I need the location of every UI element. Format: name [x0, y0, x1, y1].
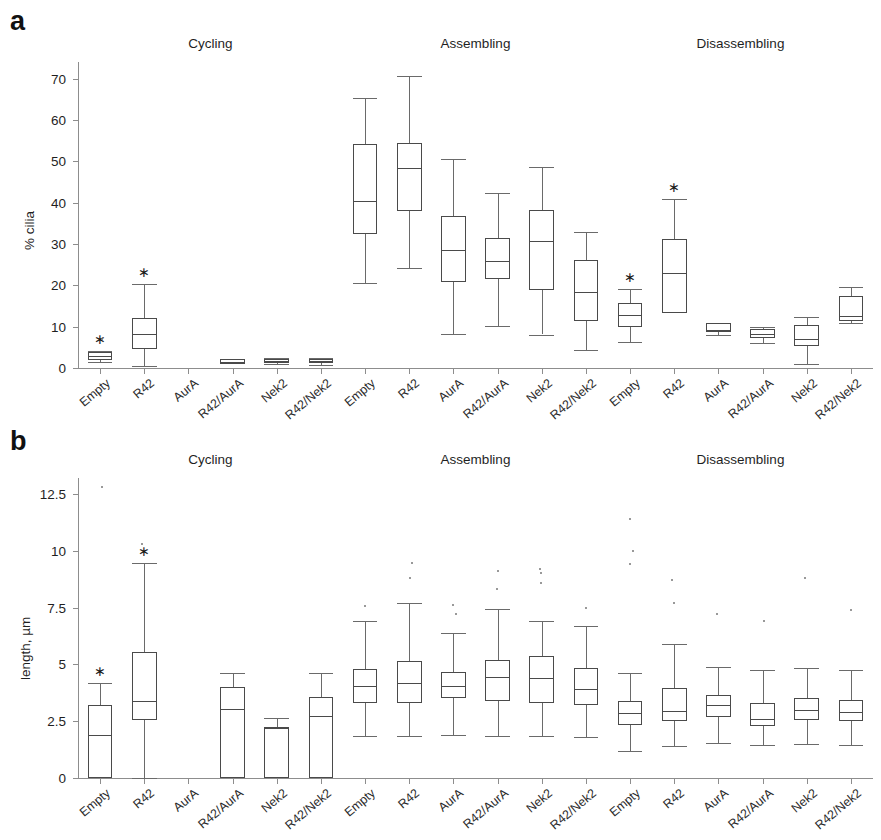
x-tick-mark — [718, 779, 719, 784]
x-tick-mark — [453, 779, 454, 784]
x-tick-mark — [807, 369, 808, 374]
panel-b: b length, µm 02.557.51012.5∗∗ CyclingAss… — [0, 420, 881, 840]
x-tick-mark — [321, 779, 322, 784]
box-plot — [78, 62, 873, 368]
y-tick-label: 12.5 — [6, 486, 66, 501]
x-tick-mark — [498, 369, 499, 374]
y-tick-label: 10 — [6, 543, 66, 558]
median-line — [839, 316, 864, 317]
y-tick-label: 20 — [6, 278, 66, 293]
x-tick-mark — [144, 369, 145, 374]
panel-b-letter: b — [10, 426, 26, 457]
whisker-cap-upper — [839, 670, 864, 671]
y-tick-label: 30 — [6, 236, 66, 251]
x-tick-mark — [144, 779, 145, 784]
y-tick-label: 40 — [6, 195, 66, 210]
x-tick-mark — [233, 369, 234, 374]
whisker-cap-lower — [839, 323, 864, 324]
outlier-point — [850, 609, 852, 611]
whisker-cap-upper — [839, 287, 864, 288]
x-tick-mark — [409, 779, 410, 784]
x-tick-mark — [807, 779, 808, 784]
x-tick-mark — [586, 779, 587, 784]
x-tick-mark — [718, 369, 719, 374]
whisker-cap-lower — [839, 745, 864, 746]
box-iqr — [839, 700, 864, 722]
x-tick-mark — [100, 779, 101, 784]
x-tick-mark — [321, 369, 322, 374]
group-title-disassembling: Disassembling — [697, 36, 785, 51]
x-tick-mark — [233, 779, 234, 784]
whisker-upper — [851, 670, 852, 700]
x-tick-mark — [453, 369, 454, 374]
x-tick-mark — [498, 779, 499, 784]
panel-a: a % cilia 010203040506070∗∗∗∗ CyclingAss… — [0, 0, 881, 420]
x-axis-line — [78, 368, 873, 369]
group-title-disassembling: Disassembling — [697, 452, 785, 467]
y-tick-label: 60 — [6, 112, 66, 127]
x-tick-mark — [586, 369, 587, 374]
x-tick-mark — [277, 779, 278, 784]
x-tick-mark — [674, 369, 675, 374]
x-tick-mark — [409, 369, 410, 374]
median-line — [839, 712, 864, 713]
x-tick-mark — [763, 779, 764, 784]
y-tick-label: 2.5 — [6, 714, 66, 729]
x-tick-mark — [277, 369, 278, 374]
y-tick-label: 70 — [6, 71, 66, 86]
whisker-upper — [851, 287, 852, 296]
panel-b-plot-area: 02.557.51012.5∗∗ — [78, 478, 873, 778]
x-tick-mark — [763, 369, 764, 374]
x-tick-mark — [542, 779, 543, 784]
panel-a-letter: a — [10, 6, 25, 37]
x-tick-mark — [674, 779, 675, 784]
y-tick-mark — [73, 778, 78, 779]
figure-root: a % cilia 010203040506070∗∗∗∗ CyclingAss… — [0, 0, 881, 840]
x-tick-mark — [188, 369, 189, 374]
panel-a-plot-area: 010203040506070∗∗∗∗ — [78, 62, 873, 368]
y-tick-label: 0 — [6, 361, 66, 376]
x-tick-mark — [542, 369, 543, 374]
x-tick-mark — [188, 779, 189, 784]
y-tick-label: 7.5 — [6, 600, 66, 615]
y-tick-label: 10 — [6, 319, 66, 334]
group-title-assembling: Assembling — [441, 36, 511, 51]
y-tick-label: 0 — [6, 771, 66, 786]
y-tick-label: 50 — [6, 154, 66, 169]
x-tick-mark — [630, 369, 631, 374]
group-title-cycling: Cycling — [188, 452, 232, 467]
x-axis-line — [78, 778, 873, 779]
y-tick-mark — [73, 368, 78, 369]
x-tick-mark — [100, 369, 101, 374]
y-tick-label: 5 — [6, 657, 66, 672]
x-tick-mark — [851, 779, 852, 784]
group-title-cycling: Cycling — [188, 36, 232, 51]
box-plot — [78, 478, 873, 778]
x-tick-mark — [630, 779, 631, 784]
x-tick-mark — [365, 779, 366, 784]
whisker-lower — [851, 721, 852, 745]
x-tick-mark — [365, 369, 366, 374]
x-tick-mark — [851, 369, 852, 374]
group-title-assembling: Assembling — [441, 452, 511, 467]
